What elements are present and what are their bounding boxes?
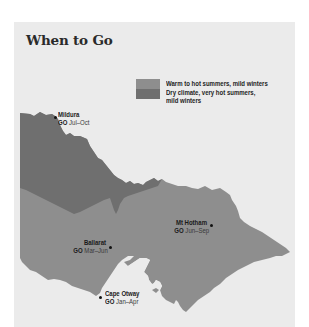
go-label: GO — [174, 227, 183, 234]
go-months: Jun–Sep — [185, 227, 209, 234]
place-name: Ballarat — [73, 239, 106, 247]
place-label-mildura: Mildura GO Jul–Oct — [58, 111, 89, 127]
place-name: Mildura — [58, 111, 89, 119]
go-months: Jan–Apr — [116, 298, 138, 305]
mildura-marker — [54, 116, 57, 119]
place-label-cape-otway: Cape Otway GO Jan–Apr — [105, 290, 139, 306]
victoria-map — [0, 0, 309, 327]
cape-otway-marker — [99, 296, 102, 299]
go-months: Mar–Jun — [84, 247, 107, 254]
go-label: GO — [105, 298, 114, 305]
place-label-mt-hotham: Mt Hotham GO Jun–Sep — [174, 219, 207, 235]
place-label-ballarat: Ballarat GO Mar–Jun — [73, 239, 106, 255]
go-months: Jul–Oct — [69, 119, 89, 126]
place-name: Cape Otway — [105, 290, 139, 298]
go-label: GO — [73, 247, 82, 254]
place-name: Mt Hotham — [174, 219, 207, 227]
ballarat-marker — [109, 246, 112, 249]
go-label: GO — [58, 119, 67, 126]
mt-hotham-marker — [210, 224, 213, 227]
